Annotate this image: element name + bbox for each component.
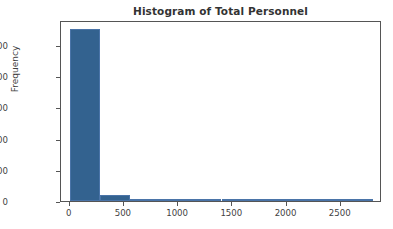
y-tick-label: 5000	[0, 41, 8, 51]
x-tick-label: 500	[93, 208, 153, 218]
histogram-bar	[282, 199, 312, 201]
x-tick-mark	[123, 202, 124, 206]
y-tick-label: 1000	[0, 166, 8, 176]
histogram-bar	[222, 199, 252, 201]
histogram-bar	[252, 199, 282, 201]
y-tick-label: 3000	[0, 103, 8, 113]
x-tick-label: 2500	[310, 208, 370, 218]
y-tick-label: 2000	[0, 135, 8, 145]
x-tick-label: 1500	[201, 208, 261, 218]
y-tick-mark	[56, 202, 60, 203]
x-tick-mark	[340, 202, 341, 206]
x-tick-mark	[177, 202, 178, 206]
x-tick-mark	[286, 202, 287, 206]
histogram-bar	[161, 199, 191, 201]
histogram-bar	[100, 195, 130, 201]
histogram-bar	[130, 199, 160, 201]
histogram-bar	[191, 199, 221, 201]
y-axis-label: Frequency	[10, 24, 20, 114]
histogram-figure: Histogram of Total Personnel Frequency 0…	[0, 0, 393, 229]
histogram-bar	[343, 199, 373, 201]
x-tick-label: 0	[39, 208, 99, 218]
x-tick-label: 1000	[147, 208, 207, 218]
plot-axes	[60, 21, 381, 202]
histogram-bar	[70, 29, 100, 201]
x-tick-mark	[231, 202, 232, 206]
y-tick-label: 4000	[0, 72, 8, 82]
histogram-bar	[313, 199, 343, 201]
plot-area	[61, 22, 380, 201]
x-tick-label: 2000	[256, 208, 316, 218]
chart-title: Histogram of Total Personnel	[60, 5, 381, 17]
y-tick-label: 0	[0, 197, 8, 207]
x-tick-mark	[69, 202, 70, 206]
